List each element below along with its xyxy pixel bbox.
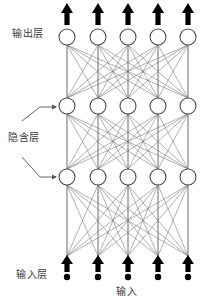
- arrow-up-icon: [61, 3, 73, 25]
- node-hidden2-4: [150, 169, 166, 185]
- node-output-4: [150, 29, 166, 45]
- output-layer-nodes: [59, 29, 196, 45]
- node-hidden2-1: [59, 169, 75, 185]
- node-output-2: [90, 29, 106, 45]
- hidden-layer-2-nodes: [59, 169, 196, 185]
- arrow-up-icon: [92, 255, 104, 272]
- arrow-up-icon: [182, 3, 194, 25]
- input-arrow-icons: [61, 255, 194, 272]
- input-layer-label: 输入层: [16, 269, 48, 280]
- node-hidden1-1: [59, 98, 75, 114]
- node-hidden2-2: [90, 169, 106, 185]
- pointer-to-hidden-2-icon: [22, 157, 56, 177]
- neural-network-diagram: 输出层 隐含层 输入层 输入: [0, 0, 208, 302]
- arrow-up-icon: [152, 3, 164, 25]
- arrow-up-icon: [61, 255, 73, 272]
- node-input-5: [185, 274, 191, 280]
- node-output-5: [180, 29, 196, 45]
- input-label: 输入: [116, 286, 137, 297]
- arrow-up-icon: [122, 255, 134, 272]
- arrow-up-icon: [152, 255, 164, 272]
- pointer-to-hidden-1-icon: [22, 107, 56, 121]
- output-arrow-icons: [61, 3, 194, 25]
- arrow-up-icon: [92, 3, 104, 25]
- input-layer-nodes: [64, 274, 191, 280]
- network-graphic: [0, 0, 208, 302]
- arrow-up-icon: [182, 255, 194, 272]
- node-hidden2-5: [180, 169, 196, 185]
- node-hidden1-3: [120, 98, 136, 114]
- hidden-layer-label: 隐含层: [8, 132, 40, 143]
- arrow-up-icon: [122, 3, 134, 25]
- node-output-1: [59, 29, 75, 45]
- node-hidden2-3: [120, 169, 136, 185]
- node-hidden1-2: [90, 98, 106, 114]
- output-layer-label: 输出层: [12, 28, 44, 39]
- node-input-4: [155, 274, 161, 280]
- node-hidden1-4: [150, 98, 166, 114]
- node-input-1: [64, 274, 70, 280]
- node-input-2: [95, 274, 101, 280]
- node-hidden1-5: [180, 98, 196, 114]
- hidden-layer-1-nodes: [59, 98, 196, 114]
- node-output-3: [120, 29, 136, 45]
- node-input-3: [125, 274, 131, 280]
